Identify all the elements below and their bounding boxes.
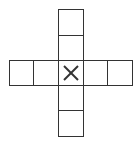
grid-cell-right-1 xyxy=(83,60,108,86)
grid-cell-right-2 xyxy=(107,60,133,86)
grid-cell-top-2 xyxy=(58,35,84,61)
x-mark-icon xyxy=(58,60,84,86)
grid-cell-top-1 xyxy=(58,9,84,36)
grid-cell-bottom-1 xyxy=(58,85,84,111)
grid-cell-left-1 xyxy=(9,60,34,86)
grid-cell-left-2 xyxy=(33,60,59,86)
grid-cell-bottom-2 xyxy=(58,110,84,137)
